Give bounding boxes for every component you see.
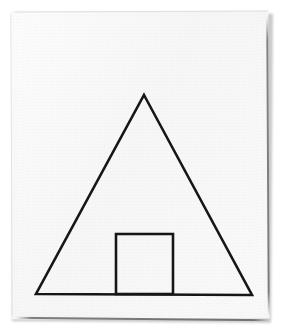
rectangle-shape — [116, 234, 173, 294]
screenshot-canvas — [0, 0, 284, 334]
drawn-figure — [0, 0, 284, 334]
triangle-shape — [36, 95, 252, 295]
